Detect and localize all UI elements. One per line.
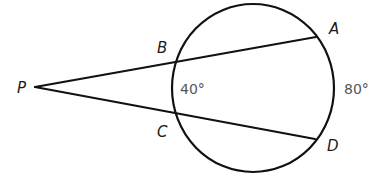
label-c: C (157, 123, 168, 141)
secant-diagram: P B A C D 40° 80° (0, 0, 392, 177)
label-d: D (327, 137, 339, 155)
secant-pd (35, 87, 315, 139)
arc-bc-measure: 40° (180, 81, 205, 97)
label-p: P (17, 79, 27, 97)
secant-pa (35, 37, 316, 87)
label-a: A (328, 20, 339, 38)
arc-ad-measure: 80° (344, 81, 369, 97)
label-b: B (157, 39, 167, 57)
